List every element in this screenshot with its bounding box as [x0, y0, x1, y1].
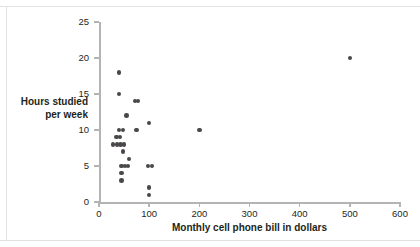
data-point	[150, 164, 155, 169]
data-point	[136, 99, 141, 104]
x-tick-mark	[399, 202, 400, 207]
x-tick-mark	[199, 202, 200, 207]
x-tick-mark	[249, 202, 250, 207]
data-point	[147, 185, 152, 190]
x-tick-mark	[349, 202, 350, 207]
x-tick-label: 0	[79, 209, 119, 219]
data-point	[118, 135, 123, 140]
x-tick-mark	[98, 202, 99, 207]
data-point	[197, 128, 202, 133]
y-tick-label: 0	[49, 197, 89, 207]
y-tick-mark	[94, 129, 99, 130]
x-tick-label: 100	[129, 209, 169, 219]
data-point	[124, 113, 129, 118]
data-point	[134, 128, 139, 133]
data-point	[117, 92, 122, 97]
data-point	[121, 128, 126, 133]
y-tick-label: 10	[49, 125, 89, 135]
y-tick-label: 5	[49, 161, 89, 171]
x-tick-mark	[148, 202, 149, 207]
y-tick-label: 20	[49, 53, 89, 63]
y-tick-mark	[94, 21, 99, 22]
y-axis-title: Hours studied per week	[6, 96, 88, 121]
y-axis-title-line-2: per week	[6, 109, 88, 122]
figure-border-bottom	[0, 240, 420, 241]
data-point	[126, 164, 131, 169]
data-point	[119, 171, 124, 176]
x-tick-label: 400	[280, 209, 320, 219]
x-tick-label: 500	[330, 209, 370, 219]
x-axis-title: Monthly cell phone bill in dollars	[99, 222, 400, 233]
x-tick-label: 300	[230, 209, 270, 219]
y-tick-mark	[94, 57, 99, 58]
x-tick-label: 200	[179, 209, 219, 219]
plot-area: 0510152025 0100200300400500600	[99, 22, 400, 202]
y-tick-label: 25	[49, 17, 89, 27]
figure-border-top	[0, 6, 420, 7]
y-tick-mark	[94, 93, 99, 94]
data-point	[147, 121, 152, 126]
data-point	[122, 142, 127, 147]
figure-border-left	[6, 6, 7, 241]
data-point	[117, 70, 122, 75]
data-point	[147, 193, 152, 198]
x-tick-mark	[299, 202, 300, 207]
data-point	[119, 178, 124, 183]
x-tick-label: 600	[380, 209, 420, 219]
data-point	[121, 149, 126, 154]
data-point	[127, 157, 132, 162]
data-point	[348, 56, 353, 61]
y-axis-line	[99, 22, 101, 202]
y-tick-label: 15	[49, 89, 89, 99]
y-tick-mark	[94, 165, 99, 166]
scatter-plot-figure: Hours studied per week 0510152025 010020…	[0, 0, 420, 247]
